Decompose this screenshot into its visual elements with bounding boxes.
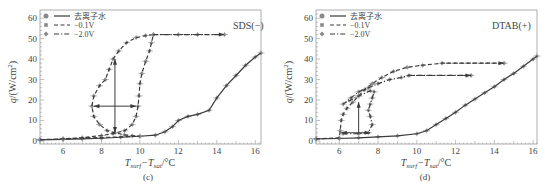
arrowhead-icon	[94, 104, 100, 108]
x-tick-label: 14	[212, 146, 222, 156]
legend-marker-circle-icon	[320, 14, 325, 19]
x-tick-label: 14	[490, 146, 500, 156]
x-tick-label: 12	[174, 146, 183, 156]
annotation-sds: SDS(−)	[233, 20, 264, 32]
y-tick-label: 50	[304, 34, 314, 44]
y-tick-label: 20	[304, 95, 314, 105]
arrowhead-icon	[498, 61, 504, 65]
y-tick-label: 50	[28, 34, 38, 44]
x-tick-label: 6	[337, 146, 342, 156]
x-tick-label: 8	[99, 146, 104, 156]
arrowhead-icon	[357, 102, 361, 108]
legend-marker-square-icon	[44, 23, 48, 27]
y-tick-label: 40	[304, 54, 314, 64]
arrowhead-icon	[219, 32, 225, 36]
chart-panel-c: 68101214160102030405060去离子水−0.1V−2.0V	[28, 10, 265, 156]
legend-entry: −2.0V	[44, 30, 95, 39]
y-tick-label: 0	[33, 136, 38, 146]
legend-marker-diamond-icon	[320, 32, 325, 37]
y-axis-label-c: q/(W/cm2)	[6, 61, 19, 103]
arrowhead-icon	[130, 104, 136, 108]
x-axis-label-d: Tsurf−Tsat/°C	[401, 157, 452, 170]
chart-panel-d: 68101214160102030405060去离子水−0.1V−2.0V	[304, 10, 541, 156]
y-tick-label: 60	[28, 13, 38, 23]
x-axis-label-c: Tsurf−Tsat/°C	[125, 157, 176, 170]
x-tick-label: 10	[135, 146, 145, 156]
y-tick-label: 0	[309, 136, 314, 146]
y-tick-label: 40	[28, 54, 38, 64]
x-tick-label: 16	[251, 146, 261, 156]
legend-label: 去离子水	[350, 11, 382, 21]
arrowhead-icon	[365, 131, 371, 135]
legend-marker-circle-icon	[44, 14, 49, 19]
caption-c: (c)	[143, 172, 153, 182]
series-line	[343, 75, 471, 133]
x-tick-label: 10	[412, 146, 422, 156]
y-tick-label: 10	[304, 115, 314, 125]
annotation-dtab: DTAB(+)	[492, 20, 531, 32]
legend-marker-diamond-icon	[44, 32, 49, 37]
caption-d: (d)	[420, 172, 431, 182]
legend-entry: 去离子水	[44, 11, 107, 21]
series-line	[40, 35, 153, 140]
legend-entry: −0.1V	[44, 21, 94, 30]
x-tick-label: 6	[61, 146, 66, 156]
legend-label: −2.0V	[74, 30, 95, 39]
legend-label: 去离子水	[74, 11, 106, 21]
arrowhead-icon	[465, 73, 471, 77]
legend-marker-square-icon	[320, 23, 324, 27]
series-line	[40, 53, 261, 140]
legend-entry: −2.0V	[320, 30, 371, 39]
x-tick-label: 16	[529, 146, 539, 156]
legend-label: −2.0V	[350, 30, 371, 39]
x-tick-label: 12	[451, 146, 460, 156]
y-tick-label: 30	[28, 75, 38, 85]
legend-entry: −0.1V	[320, 21, 370, 30]
legend-label: −0.1V	[74, 21, 95, 30]
figure: 68101214160102030405060去离子水−0.1V−2.0V 68…	[0, 0, 545, 193]
legend-entry: 去离子水	[320, 11, 383, 21]
legend-label: −0.1V	[350, 21, 371, 30]
y-tick-label: 10	[28, 115, 38, 125]
series-line	[316, 56, 537, 139]
y-tick-label: 30	[304, 75, 314, 85]
x-tick-label: 8	[376, 146, 381, 156]
y-axis-label-d: q/(W/cm2)	[282, 61, 295, 103]
y-tick-label: 20	[28, 95, 38, 105]
y-tick-label: 60	[304, 13, 314, 23]
